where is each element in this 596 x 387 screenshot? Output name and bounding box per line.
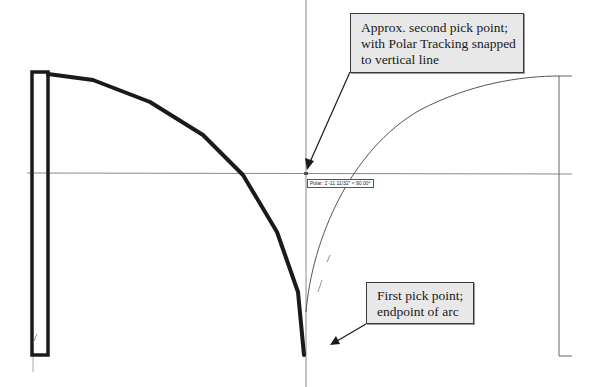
thick-rectangle[interactable] [32,72,48,355]
callout-line: with Polar Tracking snapped [361,36,515,52]
preview-arc [306,76,560,312]
first-pick-arrow-line [337,324,366,341]
polar-tracking-tooltip: Polar: 1'-11 11/32" < 90.00° [307,179,374,188]
callout-line: endpoint of arc [377,304,465,320]
arc-chord-hint [327,255,330,262]
second-pick-callout: Approx. second pick point; with Polar Tr… [350,13,524,73]
callout-line: Approx. second pick point; [361,20,515,36]
snap-marker [304,172,308,175]
callout-line: First pick point; [377,288,465,304]
first-pick-callout: First pick point; endpoint of arc [366,282,474,324]
second-pick-arrow-line [310,72,350,162]
thick-polyline-arc[interactable] [48,74,304,355]
horizontal-reference-line [27,173,572,174]
arc-chord-hint-2 [318,280,322,292]
callout-line: to vertical line [361,52,515,68]
